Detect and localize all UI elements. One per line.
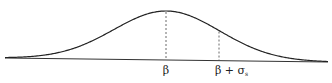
gaussian-curve: [5, 11, 328, 62]
gaussian-diagram: β β + σs: [0, 0, 332, 83]
baseline-axis: [5, 58, 328, 62]
mean-plus-sigma-label: β + σs: [215, 64, 248, 77]
mean-label: β: [163, 64, 169, 77]
